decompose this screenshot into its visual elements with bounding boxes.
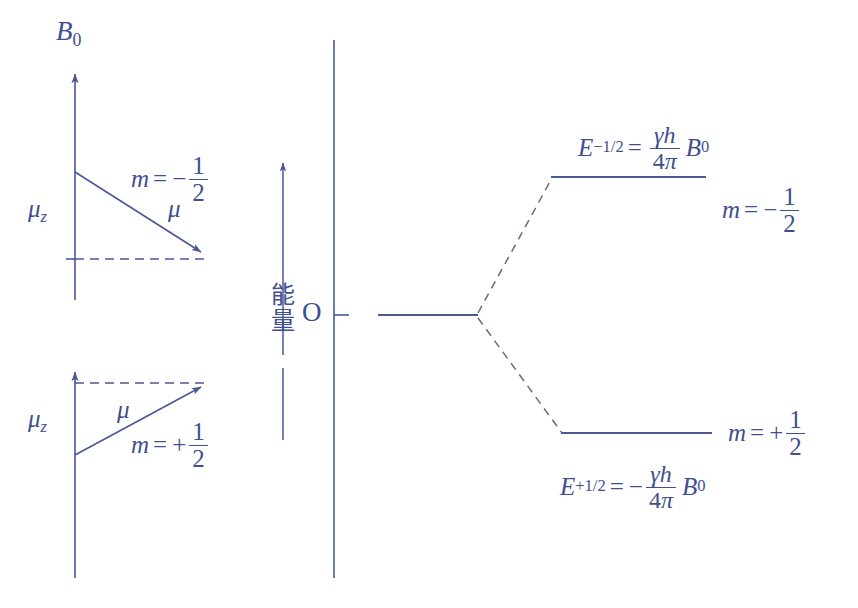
energy-label-char-2: 量 — [271, 309, 295, 333]
upper-mu-z-label: μz — [28, 196, 47, 226]
lower-level-quantum-number: m = + 12 — [728, 406, 807, 459]
lower-quantum-number-label: m = + 12 — [131, 418, 210, 471]
lower-branch-dashed — [478, 318, 562, 433]
lower-mu-label: μ — [117, 397, 130, 422]
upper-branch-dashed — [478, 178, 552, 313]
diagram-vector-graphics — [0, 0, 858, 608]
upper-energy-formula: E−1/2 = γh 4π B0 — [578, 122, 709, 173]
energy-label-char-1: 能 — [271, 283, 295, 307]
upper-quantum-number-label: m = − 12 — [131, 152, 210, 205]
lower-mu-z-label: μz — [28, 406, 47, 436]
upper-level-quantum-number: m = − 12 — [722, 183, 801, 236]
figure-canvas: B0 μz μ m = − 12 μz μ m = + 12 能 量 O — [0, 0, 858, 608]
lower-energy-formula: E+1/2 = − γh 4π B0 — [560, 461, 705, 512]
lower-vector-diagram — [75, 372, 205, 578]
energy-level-splitting — [378, 177, 712, 433]
origin-label: O — [302, 299, 322, 326]
b0-axis-label: B0 — [56, 18, 81, 50]
energy-axis-label: 能 量 — [271, 283, 295, 333]
